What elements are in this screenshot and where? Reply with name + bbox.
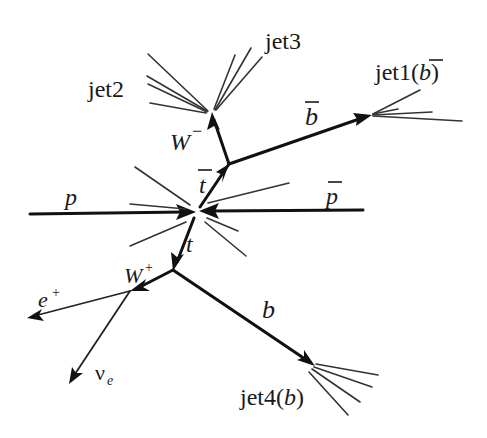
feynman-event-diagram: p p t t W − W + b b e + ν e jet2 jet3 je… <box>0 0 487 438</box>
arrow-t-icon <box>171 252 184 271</box>
svg-text:e: e <box>38 287 48 312</box>
arrow-w-minus-icon <box>207 112 220 130</box>
label-nu-e: ν e <box>95 360 113 388</box>
svg-text:b: b <box>305 102 318 131</box>
svg-text:W: W <box>170 129 192 155</box>
label-jet1: jet1(b) <box>374 59 443 85</box>
label-e-plus: e + <box>38 285 60 312</box>
jet3-fan <box>214 48 262 110</box>
arrow-nu-e-icon <box>69 367 83 384</box>
beam-pbar <box>199 203 363 219</box>
svg-text:−: − <box>192 121 202 141</box>
label-w-minus: W − <box>170 121 202 155</box>
label-pbar: p <box>324 182 342 209</box>
arrow-b-icon <box>297 350 315 366</box>
label-jet2: jet2 <box>87 76 124 102</box>
b-line <box>173 270 315 366</box>
svg-text:+: + <box>52 285 60 300</box>
w-minus-line <box>207 112 229 164</box>
jet4-fan <box>309 364 378 415</box>
label-jet3: jet3 <box>264 28 301 54</box>
svg-text:jet1(b): jet1(b) <box>374 59 439 85</box>
label-jet4: jet4(b) <box>239 384 304 410</box>
label-b: b <box>262 295 275 324</box>
svg-text:p: p <box>324 183 338 209</box>
svg-text:e: e <box>107 373 113 388</box>
bbar-line <box>229 113 372 164</box>
label-p: p <box>63 184 77 210</box>
jet2-fan <box>147 54 208 113</box>
svg-text:t: t <box>199 172 207 198</box>
svg-text:ν: ν <box>95 360 105 385</box>
svg-text:+: + <box>145 260 153 275</box>
svg-text:W: W <box>124 263 144 288</box>
label-t: t <box>186 231 194 257</box>
jet1-fan <box>373 90 462 121</box>
beam-p <box>30 204 196 220</box>
label-bbar: b <box>305 102 319 131</box>
